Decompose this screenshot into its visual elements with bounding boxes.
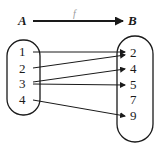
mapping-diagram: A f B 1 2 3 4 2 4 5 7 9 [0, 0, 157, 145]
element-b-7: 7 [130, 92, 137, 107]
element-b-2: 2 [130, 45, 137, 60]
set-a-label: A [17, 13, 27, 28]
element-a-2: 2 [19, 61, 26, 76]
element-b-9: 9 [130, 108, 137, 123]
element-a-1: 1 [19, 44, 26, 59]
element-a-4: 4 [19, 92, 26, 107]
element-a-3: 3 [19, 76, 26, 91]
mapping-2-to-2 [33, 55, 125, 68]
function-label: f [73, 8, 77, 19]
set-b-label: B [127, 13, 137, 28]
element-b-5: 5 [130, 77, 137, 92]
mapping-3-to-5 [33, 84, 125, 85]
mapping-3-to-4 [33, 69, 125, 82]
mapping-4-to-9 [33, 100, 125, 116]
element-b-4: 4 [130, 61, 137, 76]
